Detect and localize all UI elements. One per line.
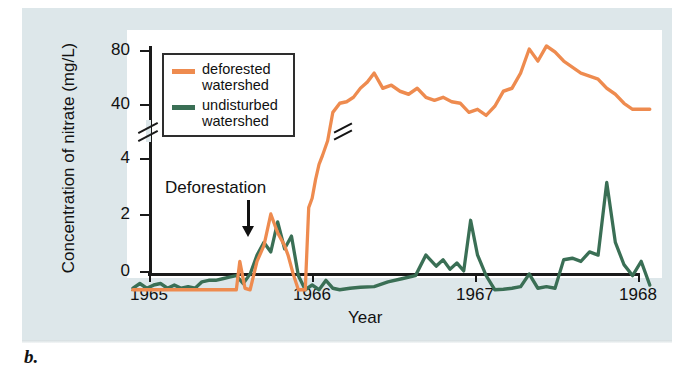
legend-label-undisturbed-line2: watershed: [202, 113, 269, 129]
chart-svg: [22, 8, 687, 371]
legend-item-undisturbed: undisturbed watershed: [172, 98, 287, 129]
figure-caption-label: b.: [24, 346, 38, 368]
line-break-icon: [333, 122, 355, 142]
legend-label-undisturbed-line1: undisturbed: [202, 97, 278, 113]
legend-item-deforested: deforested watershed: [172, 62, 287, 93]
legend-swatch-deforested: [172, 69, 195, 74]
legend-label-deforested: deforested watershed: [202, 62, 271, 93]
legend-swatch-undisturbed: [172, 105, 195, 110]
legend-label-deforested-line1: deforested: [202, 61, 271, 77]
legend-label-deforested-line2: watershed: [202, 77, 269, 93]
down-arrow-head-icon: [242, 226, 254, 237]
legend: deforested watershed undisturbed watersh…: [162, 53, 295, 137]
down-arrow-icon: [247, 200, 250, 228]
deforestation-annotation-label: Deforestation: [165, 178, 266, 198]
legend-label-undisturbed: undisturbed watershed: [202, 98, 278, 129]
series-line-undisturbed: [133, 182, 650, 289]
figure-panel: 80 40 4 2 0 1965 1966 1967 1968 Concentr…: [22, 8, 672, 340]
